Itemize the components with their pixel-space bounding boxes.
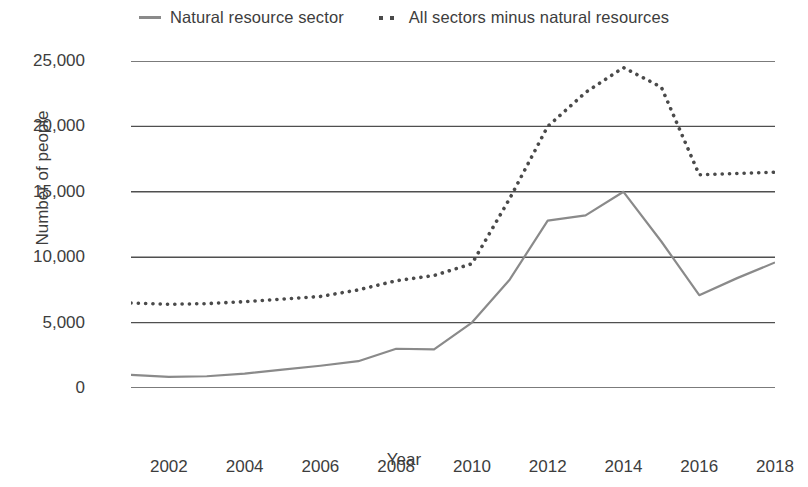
y-axis-tick-label: 25,000 <box>0 51 85 71</box>
y-axis-tick-label: 15,000 <box>0 182 85 202</box>
legend-label-all-sectors-minus-natural-resources: All sectors minus natural resources <box>409 8 669 27</box>
legend-label-natural-resource-sector: Natural resource sector <box>170 8 344 27</box>
data-series-line <box>131 192 775 377</box>
dotted-line-swatch-icon <box>378 16 400 20</box>
y-axis-tick-label: 0 <box>0 378 85 398</box>
legend-item-all-sectors-minus-natural-resources: All sectors minus natural resources <box>378 8 669 27</box>
x-axis-tick-label: 2018 <box>730 457 808 477</box>
chart-legend: Natural resource sector All sectors minu… <box>0 8 808 27</box>
y-axis-tick-label: 10,000 <box>0 247 85 267</box>
y-axis-tick-label: 5,000 <box>0 313 85 333</box>
solid-line-swatch-icon <box>139 16 161 19</box>
data-series-layer <box>131 68 775 377</box>
plot-area: 05,00010,00015,00020,00025,000 200220042… <box>131 61 775 388</box>
line-chart: Natural resource sector All sectors minu… <box>0 0 808 487</box>
gridlines <box>131 61 775 388</box>
legend-item-natural-resource-sector: Natural resource sector <box>139 8 344 27</box>
y-axis-tick-label: 20,000 <box>0 116 85 136</box>
data-series-line <box>131 68 775 305</box>
plot-canvas <box>131 61 775 388</box>
